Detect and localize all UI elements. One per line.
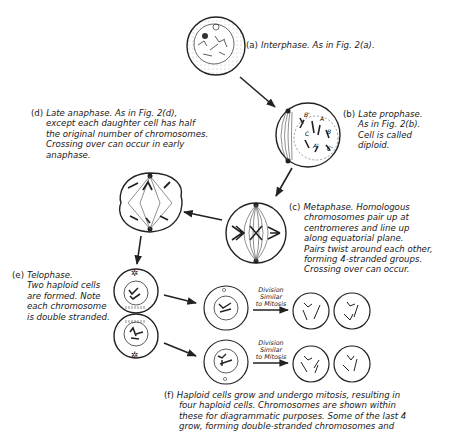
stage-e-line-1: Two haploid cells <box>12 280 110 290</box>
stage-d-label: (d)Late anaphase. As in Fig. 2(d), excep… <box>31 108 208 160</box>
stage-f-line-1: four haploid cells. Chromosomes are show… <box>164 400 406 410</box>
stage-c-line-4: Pairs twist around each other, <box>289 244 432 254</box>
stage-a-tag: (a) <box>246 40 258 50</box>
late-anaphase-cell <box>120 173 182 232</box>
stage-e-line-4: is double stranded. <box>12 312 110 322</box>
arrow-a-to-b <box>240 77 275 107</box>
stage-c-line-0: Metaphase. Homologous <box>303 202 409 212</box>
svg-text:A': A' <box>312 142 319 149</box>
stage-b-line-2: Cell is called <box>343 130 423 140</box>
division-label-bottom-line-2: to Mitosis <box>250 354 292 361</box>
stage-c-label: (c)Metaphase. Homologous chromosomes pai… <box>289 202 432 275</box>
svg-text:A: A <box>319 115 324 122</box>
stage-c-line-1: chromosomes pair up at <box>289 212 432 222</box>
stage-b-line-0: Late prophase. <box>358 109 422 119</box>
svg-text:C': C' <box>327 145 333 152</box>
stage-f-tag: (f) <box>164 390 174 400</box>
stage-b-line-3: diploid. <box>343 140 423 150</box>
stage-e-line-3: each chromosome <box>12 301 110 311</box>
stage-d-line-1: except each daughter cell has half <box>31 118 208 128</box>
telophase-cells: ✲ ✲ <box>114 268 158 360</box>
haploid-cell-bottom <box>204 340 248 384</box>
stage-f-label: (f)Haploid cells grow and undergo mitosi… <box>164 390 406 432</box>
svg-text:B: B <box>327 128 331 135</box>
stage-e-line-0: Telophase. <box>27 270 73 280</box>
arrow-c-to-d <box>184 212 222 220</box>
svg-text:B': B' <box>304 111 310 118</box>
arrow-e-to-f-top <box>164 295 196 303</box>
stage-e-tag: (e) <box>12 270 24 280</box>
interphase-cell <box>187 17 245 75</box>
stage-d-line-2: the original number of chromosomes. <box>31 129 208 139</box>
stage-b-tag: (b) <box>343 109 355 119</box>
stage-b-label: (b)Late prophase. As in Fig. 2(b). Cell … <box>343 109 423 151</box>
arrow-e-to-f-bottom <box>164 343 196 356</box>
stage-d-line-3: Crossing over can occur in early <box>31 139 208 149</box>
stage-c-line-5: forming 4-stranded groups. <box>289 254 432 264</box>
stage-a-text: Interphase. As in Fig. 2(a). <box>261 40 375 50</box>
daughter-cells-top <box>293 293 370 329</box>
stage-e-label: (e)Telophase. Two haploid cells are form… <box>12 270 110 322</box>
stage-c-line-6: Crossing over can occur. <box>289 264 432 274</box>
haploid-cell-top <box>204 286 248 330</box>
stage-a-label: (a)Interphase. As in Fig. 2(a). <box>246 40 375 50</box>
stage-c-line-2: centromeres and line up <box>289 223 432 233</box>
stage-d-line-0: Late anaphase. As in Fig. 2(d), <box>46 108 177 118</box>
division-label-top-line-2: to Mitosis <box>250 301 292 308</box>
stage-e-line-2: are formed. Note <box>12 291 110 301</box>
stage-f-line-0: Haploid cells grow and undergo mitosis, … <box>177 390 400 400</box>
daughter-cells-bottom <box>293 346 370 382</box>
stage-f-line-3: grow, forming double-stranded chromosome… <box>164 421 406 431</box>
late-prophase-cell: B' A B C A' C' <box>276 103 340 167</box>
stage-b-line-1: As in Fig. 2(b). <box>343 119 423 129</box>
stage-c-tag: (c) <box>289 202 300 212</box>
stage-d-tag: (d) <box>31 108 43 118</box>
svg-text:✲: ✲ <box>131 350 139 360</box>
arrow-d-to-e <box>137 236 141 264</box>
stage-d-line-4: anaphase. <box>31 150 208 160</box>
stage-c-line-3: along equatorial plane. <box>289 233 432 243</box>
division-label-bottom: Division Similar to Mitosis <box>250 340 292 362</box>
svg-text:✲: ✲ <box>131 268 139 278</box>
arrow-b-to-c <box>276 168 292 196</box>
stage-f-line-2: these for diagrammatic purposes. Some of… <box>164 411 406 421</box>
division-label-top: Division Similar to Mitosis <box>250 287 292 309</box>
metaphase-cell <box>226 203 286 264</box>
